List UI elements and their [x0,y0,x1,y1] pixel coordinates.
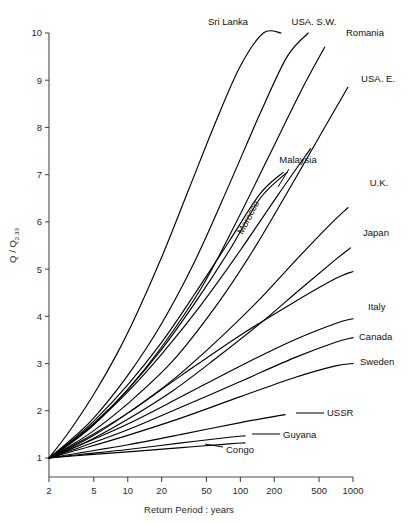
curve-label-canada: Canada [359,331,393,342]
flood-growth-curve-figure: 12345678910251020501002005001000 Sri Lan… [0,0,419,524]
curve-sweden [49,364,353,458]
curve-labels: Sri LankaUSA. S.W.RomaniaUSA. E.Malaysia… [208,16,395,455]
y-axis-tick-label: 6 [37,216,42,227]
x-axis-tick-label: 200 [266,485,282,496]
y-axis-tick-label: 9 [37,75,42,86]
label-leader-lines [205,169,324,447]
y-axis-tick-label: 4 [37,311,42,322]
x-axis-tick-label: 50 [201,485,212,496]
y-axis-tick-label: 3 [37,358,42,369]
y-axis-title-main: Q / Q [7,240,18,263]
x-axis-title: Return Period : years [144,504,234,515]
curve-label-ussr: USSR [327,407,354,418]
curve-usa-e [49,87,348,458]
y-axis-tick-label: 5 [37,264,42,275]
curve-label-usa-e: USA. E. [361,73,395,84]
chart-canvas: 12345678910251020501002005001000 Sri Lan… [0,0,419,524]
curve-label-congo: Congo [226,444,254,455]
x-axis-tick-label: 10 [122,485,133,496]
y-axis-title: Q / Q2.33 [7,228,20,263]
axes: 12345678910251020501002005001000 [31,27,363,496]
curve-romania [49,47,325,458]
curve-label-usa-s-w: USA. S.W. [292,16,337,27]
curve-label-romania: Romania [346,27,385,38]
curve-guyana [49,436,245,458]
y-axis-tick-label: 2 [37,405,42,416]
curve-unlabelled-curve-a [49,149,311,458]
curve-label-japan: Japan [363,227,389,238]
x-axis-tick-label: 500 [311,485,327,496]
y-axis-tick-label: 10 [31,27,42,38]
x-axis-tick-label: 100 [232,485,248,496]
x-axis-tick-label: 5 [91,485,96,496]
x-axis-tick-label: 2 [46,485,51,496]
y-axis-tick-label: 1 [37,452,42,463]
curve-label-malaysia: Malaysia [279,154,317,165]
x-axis-tick-label: 1000 [342,485,363,496]
curve-label-sri-lanka: Sri Lanka [208,16,249,27]
curve-label-guyana: Guyana [283,429,317,440]
curve-label-u-k: U.K. [370,177,388,188]
curve-series [49,31,353,458]
y-axis-tick-label: 7 [37,169,42,180]
y-axis-tick-label: 8 [37,122,42,133]
x-axis-tick-label: 20 [156,485,167,496]
curve-usa-s-w [49,33,308,458]
curve-label-sweden: Sweden [360,356,394,367]
y-axis-title-subscript: 2.33 [13,228,20,241]
curve-label-italy: Italy [368,301,386,312]
